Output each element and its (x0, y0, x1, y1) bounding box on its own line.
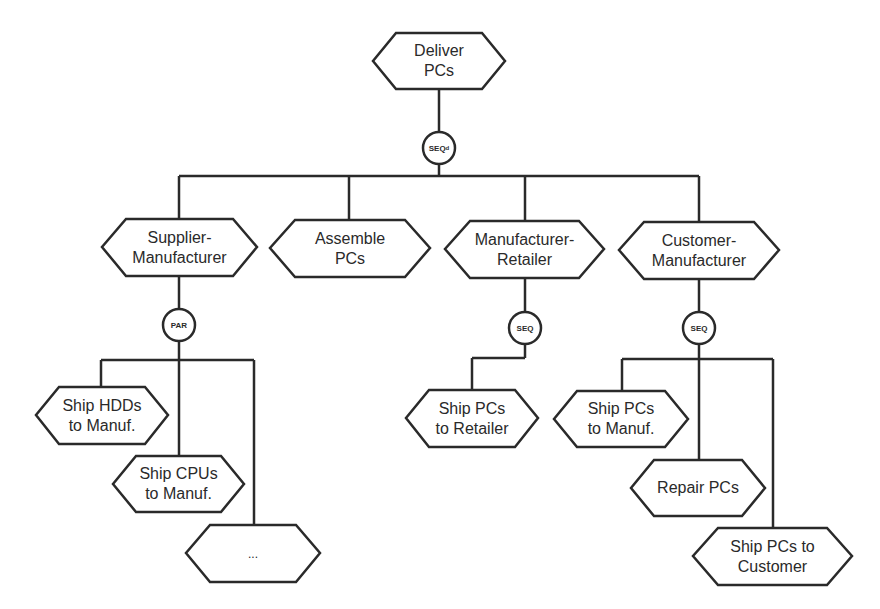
node-line2: PCs (424, 61, 454, 81)
op-label: SEQ (691, 324, 708, 333)
diagram-canvas (0, 0, 880, 609)
node-line2: Manufacturer (652, 251, 746, 271)
node-line1: Repair PCs (657, 478, 739, 498)
op-label: SEQ (517, 324, 534, 333)
node-line2: to Manuf. (145, 484, 212, 504)
node-customer-manufacturer: Customer- Manufacturer (619, 222, 779, 279)
op-seq-d: SEQd (423, 132, 455, 164)
op-label: PAR (171, 321, 187, 330)
node-line2: to Manuf. (69, 416, 136, 436)
node-ship-pcs-retailer: Ship PCs to Retailer (406, 390, 538, 447)
node-line2: to Manuf. (588, 419, 655, 439)
node-supplier-manufacturer: Supplier- Manufacturer (102, 219, 257, 276)
node-line1: ... (248, 544, 258, 564)
node-line1: Ship CPUs (139, 464, 217, 484)
op-par: PAR (163, 309, 195, 341)
node-line1: Assemble (315, 229, 385, 249)
node-line1: Ship PCs (439, 399, 506, 419)
node-ship-pcs-customer: Ship PCs to Customer (693, 528, 852, 585)
op-subscript: d (446, 145, 450, 151)
node-line2: Customer (738, 557, 807, 577)
op-label: SEQ (429, 144, 446, 153)
node-deliver-pcs: Deliver PCs (373, 33, 505, 89)
node-line1: Ship HDDs (62, 396, 141, 416)
node-line1: Customer- (662, 231, 737, 251)
node-ship-hdds: Ship HDDs to Manuf. (36, 387, 168, 444)
node-ship-pcs-manuf: Ship PCs to Manuf. (554, 391, 688, 447)
node-assemble-pcs: Assemble PCs (270, 220, 430, 277)
op-seq-retailer: SEQ (509, 312, 541, 344)
node-line1: Manufacturer- (475, 230, 575, 250)
node-manufacturer-retailer: Manufacturer- Retailer (445, 221, 604, 278)
op-seq-customer: SEQ (683, 312, 715, 344)
node-line2: PCs (335, 249, 365, 269)
node-line1: Ship PCs (588, 399, 655, 419)
node-line2: to Retailer (436, 419, 509, 439)
node-line1: Ship PCs to (730, 537, 814, 557)
node-line1: Deliver (414, 41, 464, 61)
node-repair-pcs: Repair PCs (631, 460, 765, 516)
node-line2: Retailer (497, 250, 552, 270)
node-ship-cpus: Ship CPUs to Manuf. (113, 456, 244, 512)
node-line2: Manufacturer (132, 248, 226, 268)
node-ellipsis: ... (186, 525, 320, 582)
node-line1: Supplier- (147, 228, 211, 248)
